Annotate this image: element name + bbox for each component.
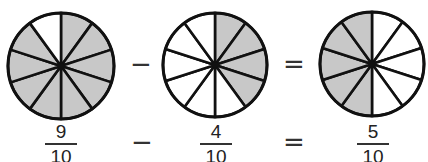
fraction-four-tenths: 4 10 bbox=[196, 122, 236, 162]
fraction-bar bbox=[45, 143, 77, 145]
numerator: 9 bbox=[41, 122, 81, 142]
fraction-five-tenths: 5 10 bbox=[353, 122, 393, 162]
minus-sign-top: − bbox=[130, 51, 152, 77]
numerator: 4 bbox=[196, 122, 236, 142]
equals-sign-bottom: = bbox=[283, 129, 305, 155]
center-point bbox=[369, 61, 375, 67]
equals-sign-top: = bbox=[283, 51, 305, 77]
denominator: 10 bbox=[353, 147, 393, 162]
fraction-nine-tenths: 9 10 bbox=[41, 122, 81, 162]
fraction-bar bbox=[357, 143, 389, 145]
numerator: 5 bbox=[353, 122, 393, 142]
minus-sign-bottom: − bbox=[131, 129, 153, 155]
denominator: 10 bbox=[196, 147, 236, 162]
denominator: 10 bbox=[41, 147, 81, 162]
fraction-bar bbox=[200, 143, 232, 145]
